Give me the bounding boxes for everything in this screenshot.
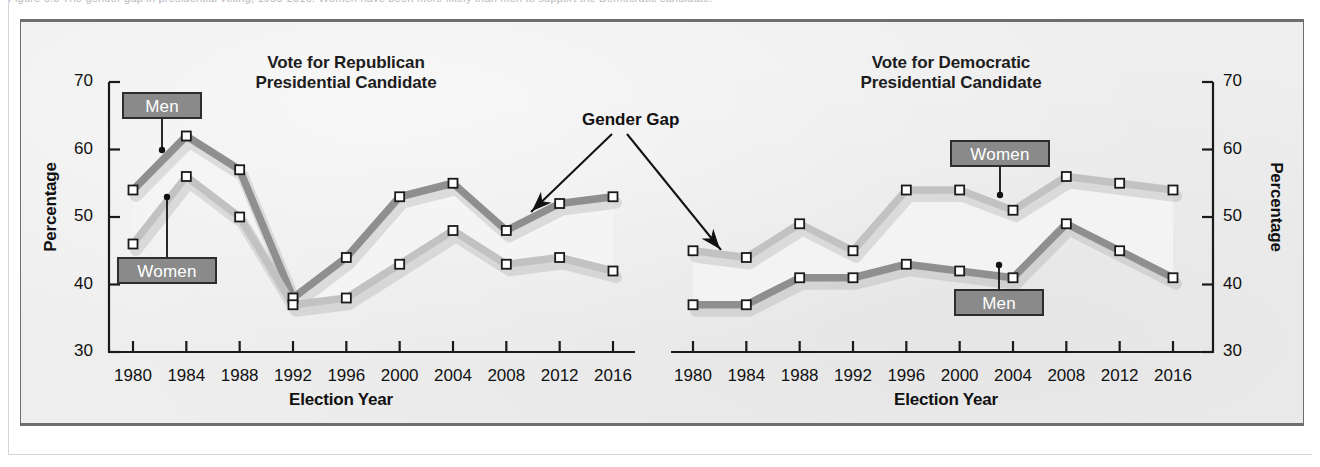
page-left-rule [8, 0, 9, 455]
democratic-x-tick-2016: 2016 [1147, 366, 1199, 386]
democratic-x-tick-1984: 1984 [720, 366, 772, 386]
figure-page: Figure 6.3 The gender gap in presidentia… [0, 0, 1320, 467]
democratic-y-tick-40: 40 [1223, 274, 1257, 294]
men-callout-democratic: Men [954, 289, 1044, 316]
cropped-caption-text: Figure 6.3 The gender gap in presidentia… [8, 0, 1312, 9]
democratic-x-tick-1996: 1996 [880, 366, 932, 386]
women-callout-democratic: Women [950, 140, 1050, 167]
chart-figure: Vote for Republican Presidential Candida… [20, 19, 1304, 426]
democratic-x-tick-2000: 2000 [934, 366, 986, 386]
page-bottom-rule [8, 454, 1312, 455]
democratic-x-tick-2008: 2008 [1040, 366, 1092, 386]
democratic-chart-panel: Vote for Democratic Presidential Candida… [651, 22, 1304, 426]
democratic-y-tick-70: 70 [1223, 71, 1257, 91]
democratic-y-tick-30: 30 [1223, 341, 1257, 361]
democratic-x-tick-1988: 1988 [774, 366, 826, 386]
democratic-y-tick-60: 60 [1223, 139, 1257, 159]
democratic-x-tick-2004: 2004 [987, 366, 1039, 386]
democratic-x-tick-2012: 2012 [1094, 366, 1146, 386]
democratic-x-tick-1992: 1992 [827, 366, 879, 386]
democratic-y-tick-50: 50 [1223, 206, 1257, 226]
democratic-x-tick-1980: 1980 [667, 366, 719, 386]
